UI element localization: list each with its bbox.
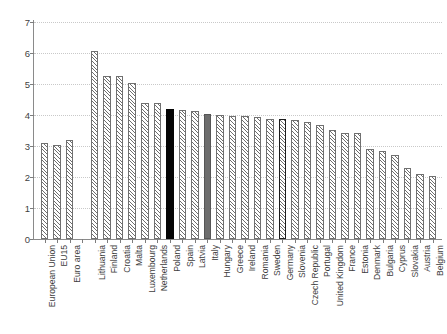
y-tick-label: 7 bbox=[0, 17, 30, 28]
bar-italy[interactable] bbox=[204, 114, 212, 239]
bar-belgium[interactable] bbox=[429, 176, 437, 239]
x-label-eu15: EU15 bbox=[60, 245, 69, 267]
bar-hungary[interactable] bbox=[216, 115, 224, 239]
bar-france[interactable] bbox=[341, 133, 349, 239]
x-tick-mark bbox=[57, 239, 58, 243]
x-tick-mark bbox=[257, 239, 258, 243]
bar-bulgaria[interactable] bbox=[379, 151, 387, 239]
x-tick-label: Latvia bbox=[198, 245, 207, 268]
x-label-bulgaria: Bulgaria bbox=[386, 245, 395, 277]
x-tick-mark bbox=[45, 239, 46, 243]
x-label-luxembourg: Luxembourg bbox=[148, 245, 157, 293]
bar-greece[interactable] bbox=[229, 116, 237, 239]
bar-series bbox=[34, 22, 442, 239]
x-tick-label: Lithuania bbox=[98, 245, 107, 280]
x-tick-mark bbox=[132, 239, 133, 243]
bar-denmark[interactable] bbox=[366, 149, 374, 239]
x-label-hungary: Hungary bbox=[223, 245, 232, 277]
x-tick-mark bbox=[107, 239, 108, 243]
bar-ireland[interactable] bbox=[241, 116, 249, 239]
x-tick-mark bbox=[170, 239, 171, 243]
x-label-european-union: European Union bbox=[48, 245, 57, 307]
x-tick-mark bbox=[370, 239, 371, 243]
x-label-sweden: Sweden bbox=[273, 245, 282, 276]
bar-spain[interactable] bbox=[179, 110, 187, 239]
bar-romania[interactable] bbox=[254, 117, 262, 239]
x-tick-mark bbox=[195, 239, 196, 243]
x-label-latvia: Latvia bbox=[198, 245, 207, 268]
x-label-finland: Finland bbox=[110, 245, 119, 273]
x-tick-label: European Union bbox=[48, 245, 57, 307]
bar-eu15[interactable] bbox=[53, 145, 61, 239]
bar-euro-area[interactable] bbox=[66, 140, 74, 239]
y-tick-label: 4 bbox=[0, 110, 30, 121]
x-tick-label: Portugal bbox=[323, 245, 332, 277]
x-tick-label: Euro area bbox=[73, 245, 82, 283]
x-label-cyprus: Cyprus bbox=[398, 245, 407, 272]
x-tick-mark bbox=[220, 239, 221, 243]
x-tick-mark bbox=[157, 239, 158, 243]
x-label-slovakia: Slovakia bbox=[411, 245, 420, 277]
x-label-euro-area: Euro area bbox=[73, 245, 82, 283]
x-label-estonia: Estonia bbox=[361, 245, 370, 274]
bar-croatia[interactable] bbox=[116, 76, 124, 239]
x-tick-mark-gap bbox=[82, 239, 83, 243]
x-label-denmark: Denmark bbox=[373, 245, 382, 280]
bar-european-union[interactable] bbox=[41, 143, 49, 239]
x-label-france: France bbox=[348, 245, 357, 272]
x-tick-label: Germany bbox=[286, 245, 295, 280]
bar-estonia[interactable] bbox=[354, 133, 362, 239]
bar-finland[interactable] bbox=[103, 76, 111, 239]
bar-lithuania[interactable] bbox=[91, 51, 99, 239]
x-tick-mark bbox=[182, 239, 183, 243]
bar-slovenia[interactable] bbox=[291, 120, 299, 239]
x-tick-label: Slovenia bbox=[298, 245, 307, 278]
x-tick-mark bbox=[245, 239, 246, 243]
bar-poland[interactable] bbox=[166, 109, 174, 240]
x-tick-mark bbox=[358, 239, 359, 243]
x-tick-label: Greece bbox=[236, 245, 245, 273]
x-label-poland: Poland bbox=[173, 245, 182, 272]
x-tick-mark bbox=[120, 239, 121, 243]
x-tick-label: Finland bbox=[110, 245, 119, 273]
bar-malta[interactable] bbox=[128, 83, 136, 239]
y-tick-label: 6 bbox=[0, 48, 30, 59]
bar-slovakia[interactable] bbox=[404, 168, 412, 239]
x-label-malta: Malta bbox=[135, 245, 144, 266]
x-tick-label: Hungary bbox=[223, 245, 232, 277]
x-label-greece: Greece bbox=[236, 245, 245, 273]
bar-sweden[interactable] bbox=[266, 119, 274, 239]
x-tick-mark bbox=[408, 239, 409, 243]
bar-netherlands[interactable] bbox=[154, 103, 162, 239]
bar-portugal[interactable] bbox=[316, 125, 324, 239]
x-tick-mark bbox=[345, 239, 346, 243]
x-tick-label: Estonia bbox=[361, 245, 370, 274]
x-tick-label: Italy bbox=[211, 245, 220, 261]
x-tick-label: Spain bbox=[186, 245, 195, 267]
x-tick-mark bbox=[420, 239, 421, 243]
x-label-belgium: Belgium bbox=[436, 245, 445, 276]
x-tick-label: Slovakia bbox=[411, 245, 420, 277]
y-tick-label: 2 bbox=[0, 172, 30, 183]
x-label-italy: Italy bbox=[211, 245, 220, 261]
bar-germany[interactable] bbox=[279, 119, 287, 239]
bar-cyprus[interactable] bbox=[391, 155, 399, 239]
x-label-united-kingdom: United Kingdom bbox=[336, 245, 345, 306]
bar-united-kingdom[interactable] bbox=[329, 130, 337, 239]
x-tick-label: Ireland bbox=[248, 245, 257, 271]
x-label-spain: Spain bbox=[186, 245, 195, 267]
x-tick-mark bbox=[332, 239, 333, 243]
x-label-ireland: Ireland bbox=[248, 245, 257, 271]
x-tick-label: Netherlands bbox=[160, 245, 169, 291]
x-label-lithuania: Lithuania bbox=[98, 245, 107, 280]
bar-czech-republic[interactable] bbox=[304, 122, 312, 239]
x-tick-mark bbox=[395, 239, 396, 243]
x-label-netherlands: Netherlands bbox=[160, 245, 169, 291]
x-label-austria: Austria bbox=[423, 245, 432, 272]
x-label-romania: Romania bbox=[261, 245, 270, 279]
chart-root: 01234567 European UnionEU15Euro areaLith… bbox=[0, 0, 447, 334]
x-tick-label: Denmark bbox=[373, 245, 382, 280]
bar-latvia[interactable] bbox=[191, 111, 199, 239]
bar-austria[interactable] bbox=[416, 174, 424, 239]
bar-luxembourg[interactable] bbox=[141, 103, 149, 239]
